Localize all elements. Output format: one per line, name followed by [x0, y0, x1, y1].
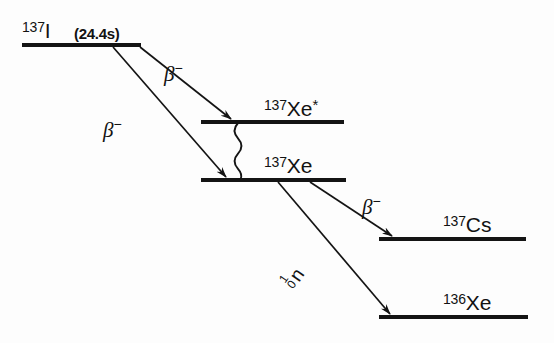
level-label-xe136: 136Xe — [443, 292, 491, 313]
arrow-beta-to-xe137m — [140, 47, 231, 119]
beta-charge-1: − — [174, 60, 182, 76]
level-lines-group — [22, 45, 528, 317]
level-label-xe137: 137Xe — [264, 155, 312, 176]
beta-charge-3: − — [372, 193, 380, 209]
level-label-cs137: 137Cs — [443, 214, 491, 235]
element-symbol-i137: I — [45, 19, 51, 42]
mass-number-xe137m: 137 — [264, 97, 287, 113]
beta-charge-2: − — [113, 116, 121, 132]
level-label-xe137m: 137Xe* — [264, 97, 318, 119]
transition-label-beta-to-xe137m: β− — [164, 60, 183, 87]
transition-label-beta-to-cs137: β− — [362, 193, 381, 220]
gamma-wavy-transition — [235, 123, 242, 179]
beta-glyph-3: β — [362, 195, 372, 219]
beta-glyph-1: β — [164, 62, 174, 86]
mass-number-xe137: 137 — [264, 154, 287, 170]
mass-number-cs137: 137 — [443, 213, 466, 229]
element-symbol-xe137: Xe — [287, 154, 313, 177]
beta-glyph-2: β — [103, 118, 113, 142]
mass-number-xe136: 136 — [443, 291, 466, 307]
decay-scheme-diagram: 137I (24.4s) 137Xe* 137Xe 137Cs 136Xe β−… — [0, 0, 554, 343]
element-symbol-xe136: Xe — [466, 291, 492, 314]
mass-number-i137: 137 — [22, 19, 45, 35]
element-symbol-cs137: Cs — [466, 213, 492, 236]
excited-state-asterisk: * — [312, 96, 318, 113]
level-label-i137: 137I — [22, 20, 51, 41]
element-symbol-xe137m: Xe — [287, 97, 313, 120]
half-life-annotation-i137: (24.4s) — [74, 25, 119, 42]
transition-label-beta-to-xe137: β− — [103, 116, 122, 143]
